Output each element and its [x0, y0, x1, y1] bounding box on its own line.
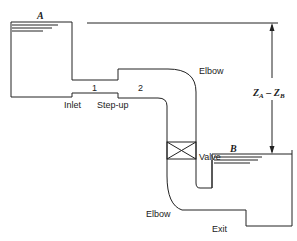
reservoir-a-wall — [72, 22, 150, 80]
section-2-label: 2 — [138, 83, 143, 93]
stepup-label: Step-up — [97, 100, 129, 110]
pipe-inner-elbow — [167, 176, 195, 210]
inlet-label: Inlet — [64, 100, 82, 110]
reservoir-a — [11, 22, 150, 98]
reservoir-b-label: B — [229, 143, 237, 154]
pipe-outer — [150, 69, 212, 188]
pipe-system-diagram: A B Inlet 1 Step-up 2 Elbow Valve Elbow … — [0, 0, 297, 241]
elbow-top-label: Elbow — [199, 66, 224, 76]
arrow-up-icon — [270, 23, 275, 31]
exit-label: Exit — [212, 224, 228, 234]
arrow-down-icon — [270, 146, 275, 154]
reservoir-b-outline — [246, 150, 292, 226]
valve-label: Valve — [199, 152, 221, 162]
reservoir-a-label: A — [36, 10, 44, 21]
section-1-label: 1 — [92, 83, 97, 93]
elbow-bottom-label: Elbow — [146, 209, 171, 219]
